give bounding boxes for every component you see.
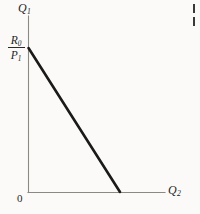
fraction-denominator: P1 [4, 49, 28, 62]
y-axis-label-subscript: 1 [27, 7, 31, 16]
fraction-denominator-base: P [11, 49, 18, 61]
fraction-numerator-base: R [11, 34, 18, 46]
fraction-numerator-subscript: 0 [18, 39, 22, 48]
fraction-numerator: R0 [4, 34, 28, 47]
y-axis-label-base: Q [18, 1, 27, 15]
x-axis-label-base: Q [168, 183, 177, 197]
y-axis-label: Q1 [18, 1, 31, 16]
figure-container: Q1 Q2 0 R0 P1 [0, 0, 200, 214]
fraction-denominator-subscript: 1 [18, 54, 22, 63]
page-edge-mark-lower [193, 17, 195, 26]
x-axis-label: Q2 [168, 183, 181, 198]
plot-background [0, 0, 200, 214]
origin-label: 0 [17, 192, 23, 204]
page-edge-mark-upper [193, 4, 195, 13]
y-intercept-fraction-label: R0 P1 [4, 34, 28, 62]
x-axis-label-subscript: 2 [177, 189, 181, 198]
budget-constraint-plot [0, 0, 200, 214]
